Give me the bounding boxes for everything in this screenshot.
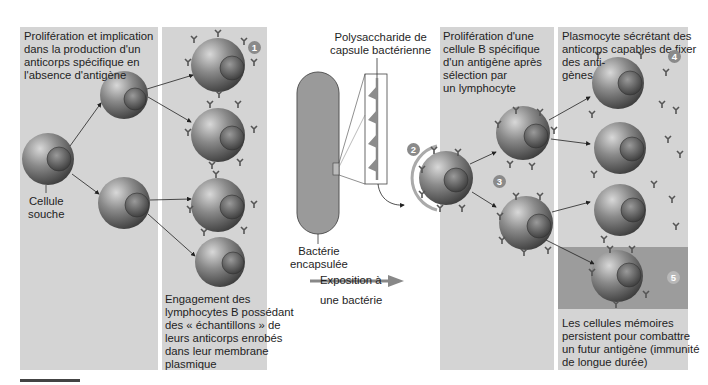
b-cell-1 [185, 30, 257, 98]
step-marker-5: 5 [667, 271, 680, 284]
b-cell-3 [187, 171, 257, 236]
bacteria-label: Bactérie encapsulée [290, 245, 348, 271]
left-panel-title: Prolifération et implication dans la pro… [24, 30, 153, 82]
memory-caption: Les cellules mémoires persistent pour co… [562, 317, 700, 369]
plasma-cell-2 [594, 122, 646, 174]
scale-bar [20, 379, 80, 382]
step-marker-1: 1 [248, 41, 261, 54]
progenitor-cell-bottom [98, 177, 150, 229]
selected-b-cell [412, 146, 473, 212]
step-marker-3: 3 [493, 175, 506, 188]
step-marker-2: 2 [407, 143, 420, 156]
capsule-label: Polysaccharide de capsule bactérienne [330, 31, 431, 57]
stem-cell-label: Cellule souche [28, 195, 64, 221]
b-cell-4 [195, 237, 245, 287]
stem-cell [22, 133, 74, 193]
right-panel-title: Prolifération d'une cellule B spécifique… [443, 30, 542, 95]
left-panel-caption: Engagement des lymphocytes B possédant d… [165, 293, 294, 371]
clone-cell-top [495, 106, 557, 170]
step-marker-4: 4 [668, 50, 681, 63]
exposure-label: Exposition à une bactérie [320, 270, 382, 310]
clone-cell-bottom [497, 193, 553, 256]
plasma-cell-3 [594, 184, 646, 236]
capsule-zoom-box [333, 58, 404, 205]
encapsulated-bacterium [297, 72, 339, 244]
memory-cell [589, 246, 649, 308]
b-cell-2 [185, 101, 257, 169]
